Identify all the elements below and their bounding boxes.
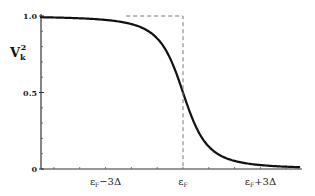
y-tick-label: 0.5 [23, 88, 37, 98]
x-tick-label: εF [178, 176, 187, 188]
series-group [41, 16, 299, 169]
x-tick-label: εF−3Δ [90, 176, 121, 188]
y-axis-label: Vk2 [9, 42, 26, 62]
y-tick-label: 0 [31, 164, 37, 174]
offset-text: +3Δ [254, 176, 276, 187]
offset-text: −3Δ [99, 176, 121, 187]
axes [39, 14, 302, 169]
x-tick-label: εF+3Δ [245, 176, 276, 188]
y-tick-label: 1.0 [23, 11, 37, 21]
chart: 00.51.0εF−3ΔεFεF+3Δ Vk2 [0, 0, 315, 196]
normal-state-step-dashed-line [126, 16, 183, 169]
y-axis-label-sup: 2 [21, 42, 27, 52]
fermi-subscript: F [184, 181, 188, 188]
y-axis-label-sub: k [20, 52, 26, 62]
bcs-occupation-curve [41, 17, 299, 167]
